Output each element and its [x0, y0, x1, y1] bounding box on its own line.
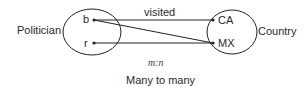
- member-ca-label: CA: [218, 14, 233, 26]
- point-b: [92, 18, 95, 21]
- country-label: Country: [258, 25, 297, 37]
- caption: Many to many: [126, 74, 195, 86]
- politician-label: Politician: [17, 24, 61, 36]
- point-ca: [211, 18, 214, 21]
- relation-label: visited: [144, 6, 175, 18]
- cardinality-label: m:n: [148, 57, 164, 69]
- mapping-b-mx: [94, 20, 213, 43]
- point-r: [92, 41, 95, 44]
- point-mx: [211, 41, 214, 44]
- politician-set-ellipse: [63, 9, 121, 55]
- member-b-label: b: [83, 13, 89, 25]
- member-mx-label: MX: [218, 37, 235, 49]
- member-r-label: r: [84, 37, 88, 49]
